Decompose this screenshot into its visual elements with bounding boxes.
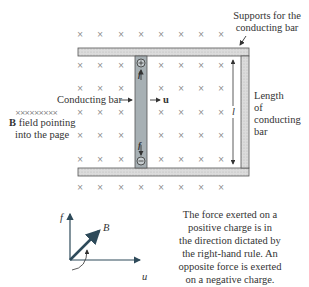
svg-text:×: × [118,30,125,39]
force-bottom-label: f [138,139,141,151]
svg-text:×: × [178,155,185,164]
svg-text:×: × [158,30,165,39]
svg-text:×: × [198,108,205,117]
supports-pointer [240,36,246,45]
b-field-label: B field pointing [9,117,76,129]
svg-text:×: × [97,61,104,70]
velocity-label: u [163,94,169,106]
bottom-rail [78,168,249,176]
svg-text:×: × [218,84,225,93]
svg-text:×: × [118,108,125,117]
svg-text:×: × [158,108,165,117]
axis-b-label: B [103,222,109,234]
conducting-bar-label: Conducting bar [57,94,122,106]
svg-text:×: × [218,155,225,164]
supports-label: Supports for the conducting bar [225,10,309,34]
svg-text:×: × [77,183,84,192]
svg-text:×: × [77,155,84,164]
svg-text:×: × [198,183,205,192]
svg-text:×: × [118,61,125,70]
svg-text:×: × [198,84,205,93]
svg-text:×: × [118,155,125,164]
svg-text:×: × [118,84,125,93]
svg-text:×: × [178,131,185,140]
svg-text:×: × [77,30,84,39]
svg-text:×: × [138,183,145,192]
axis-f-label: f [60,212,63,224]
svg-text:×: × [158,61,165,70]
svg-text:×: × [77,131,84,140]
force-top-label: f [138,68,141,80]
explanation-text: The force exerted on a positive charge i… [155,208,305,286]
negative-charge-icon [137,157,145,165]
svg-text:×: × [178,183,185,192]
svg-text:×: × [218,61,225,70]
svg-text:×: × [198,61,205,70]
svg-text:×: × [198,131,205,140]
svg-text:×: × [218,183,225,192]
svg-text:×: × [158,183,165,192]
svg-text:×: × [178,61,185,70]
svg-text:×: × [118,131,125,140]
svg-text:×: × [97,183,104,192]
svg-text:×: × [158,131,165,140]
svg-text:×: × [97,84,104,93]
axis-u-label: u [142,271,147,283]
positive-charge-icon [137,59,145,67]
length-symbol: l [232,106,235,118]
svg-text:×: × [178,84,185,93]
svg-text:×: × [198,155,205,164]
svg-text:×: × [77,84,84,93]
length-label: Length of conducting bar [254,90,301,138]
top-rail [78,48,249,56]
svg-text:×: × [158,84,165,93]
svg-text:×: × [97,155,104,164]
svg-text:×: × [218,131,225,140]
svg-text:×: × [178,30,185,39]
svg-text:×: × [77,61,84,70]
svg-text:×: × [97,131,104,140]
svg-text:×: × [97,30,104,39]
right-rail [241,56,249,168]
svg-text:×: × [77,108,84,117]
svg-text:×: × [218,30,225,39]
svg-text:×: × [118,183,125,192]
b-field-label-line2: into the page [15,129,69,141]
svg-text:×: × [178,108,185,117]
svg-text:×: × [158,155,165,164]
svg-text:×: × [97,108,104,117]
svg-text:×: × [198,30,205,39]
svg-text:×: × [138,30,145,39]
svg-text:×: × [218,108,225,117]
